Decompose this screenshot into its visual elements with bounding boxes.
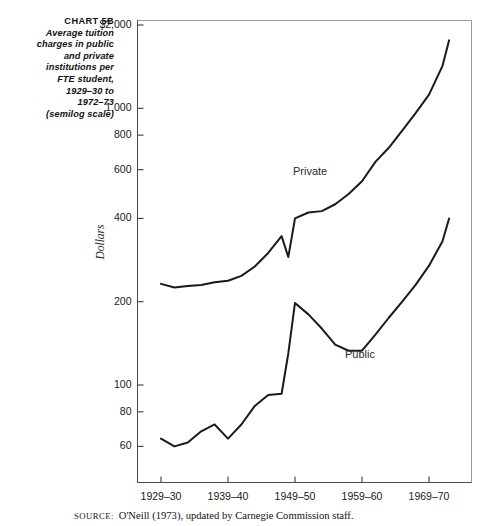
series-label-private: Private (293, 165, 327, 177)
y-axis-tick-label: $2,000 (76, 18, 132, 30)
x-axis-tick-label: 1969–70 (394, 490, 464, 502)
x-axis-tick-label: 1959–60 (327, 490, 397, 502)
y-axis-tick-label: 1,000 (76, 101, 132, 113)
y-axis-tick-label: 200 (76, 295, 132, 307)
x-axis-tick-label: 1939–40 (193, 490, 263, 502)
series-label-public: Public (345, 348, 375, 360)
x-axis-tick-label: 1929–30 (126, 490, 196, 502)
y-axis-tick-label: 800 (76, 128, 132, 140)
y-axis-tick-label: 400 (76, 211, 132, 223)
source-note: SOURCE:O'Neill (1973), updated by Carneg… (74, 510, 354, 521)
plot-frame (137, 20, 472, 483)
y-axis-tick-label: 100 (76, 378, 132, 390)
chart-title-line-5: FTE student, (14, 74, 114, 86)
y-axis-tick-label: 60 (76, 439, 132, 451)
source-text: O'Neill (1973), updated by Carnegie Comm… (119, 510, 354, 521)
y-axis-tick-label: 600 (76, 163, 132, 175)
chart-title-line-2: charges in public (14, 39, 114, 51)
x-axis-tick-label: 1949–50 (260, 490, 330, 502)
y-axis-tick-label: 80 (76, 405, 132, 417)
chart-page: CHART 5B Average tuition charges in publ… (0, 0, 492, 526)
chart-title-line-6: 1929–30 to (14, 86, 114, 98)
source-label: SOURCE: (74, 511, 114, 521)
chart-title-line-4: institutions per (14, 62, 114, 74)
chart-title-line-3: and private (14, 51, 114, 63)
